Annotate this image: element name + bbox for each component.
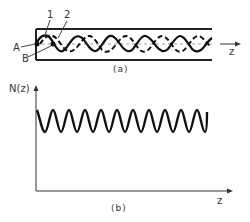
y-axis-label: N(z) <box>9 84 30 94</box>
figure-a <box>21 20 241 60</box>
point-a-marker <box>35 42 40 47</box>
point-b-marker <box>51 42 56 47</box>
n-z-curve <box>37 110 207 132</box>
x-axis-label: z <box>217 196 222 206</box>
label-1: 1 <box>47 10 53 20</box>
label-2: 2 <box>64 10 70 20</box>
leader-1 <box>45 20 50 35</box>
x-arrowhead-icon <box>227 189 233 194</box>
figure-b <box>34 85 234 194</box>
label-b: B <box>22 54 29 64</box>
leader-a <box>21 44 35 47</box>
leader-b <box>28 46 51 57</box>
arrowhead-icon <box>235 42 241 47</box>
diagram-canvas <box>0 0 250 222</box>
label-z-a: z <box>229 47 234 57</box>
caption-b: (b) <box>111 203 127 213</box>
caption-a: (a) <box>113 64 129 74</box>
label-a: A <box>13 43 20 53</box>
y-arrowhead-icon <box>34 85 39 91</box>
